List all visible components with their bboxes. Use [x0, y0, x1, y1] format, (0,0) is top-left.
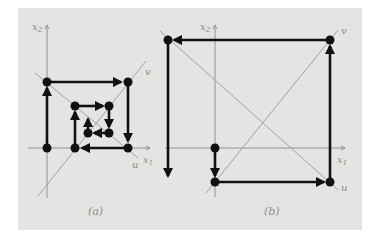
diagram-figure: x2 x1 u v (a) x2 — [0, 0, 380, 235]
point-b — [211, 178, 220, 187]
v-label-a: v — [145, 66, 151, 77]
point-b — [164, 36, 173, 45]
point-a — [124, 78, 133, 87]
point-b — [326, 36, 335, 45]
point-a — [43, 78, 52, 87]
point-b — [326, 178, 335, 187]
point-a — [105, 129, 114, 138]
point-b — [211, 144, 220, 153]
u-label-a: u — [132, 159, 138, 170]
point-a — [124, 144, 133, 153]
point-a — [71, 102, 80, 111]
caption-a: (a) — [88, 205, 103, 218]
point-a — [71, 144, 80, 153]
point-a — [84, 129, 93, 138]
u-label-b: u — [341, 182, 347, 193]
point-a — [43, 144, 52, 153]
caption-b: (b) — [264, 205, 280, 218]
point-a — [105, 102, 114, 111]
v-label-b: v — [341, 25, 347, 36]
